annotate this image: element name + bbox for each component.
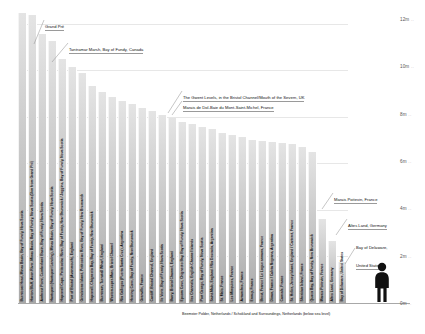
callout-altes-land-label: Altes Land, Germany (348, 223, 387, 230)
tidal-range-chart: Burntcoat Head, Minas Basin, Bay of Fund… (0, 0, 425, 334)
callout-bay-of-delaware-line1: Bay of Delaware, (356, 245, 388, 251)
callout-dol: Marais de Dol-Baie du Mont-Saint-Michel,… (183, 95, 274, 113)
callout-marais-poitevin: Marais Poitevin, France (334, 187, 377, 205)
human-silhouette-icon (371, 261, 393, 303)
callout-grand-pre-label: Grand Pré (45, 24, 64, 31)
callout-grand-pre: Grand Pré (45, 14, 64, 32)
callout-altes-land: Altes Land, Germany (348, 213, 387, 231)
callout-tantramar: Tantramar Marsh, Bay of Fundy, Canada (69, 37, 143, 55)
callout-tantramar-label: Tantramar Marsh, Bay of Fundy, Canada (69, 47, 143, 54)
callout-leaders (0, 0, 425, 334)
callout-marais-poitevin-label: Marais Poitevin, France (334, 197, 377, 204)
footnote-below-sea-level: Beemster Polder, Netherlands / Schokland… (182, 312, 330, 316)
callout-dol-label: Marais de Dol-Baie du Mont-Saint-Michel,… (183, 105, 274, 112)
